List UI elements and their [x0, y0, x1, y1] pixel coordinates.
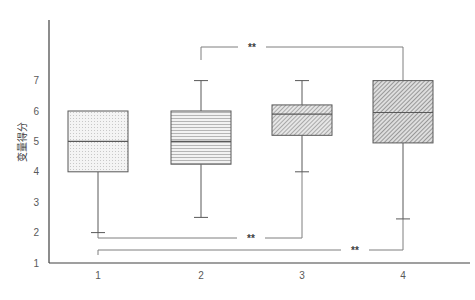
significance-bracket-1-3: ** — [98, 172, 302, 244]
boxplot-chart: ****** 12345671234变量得分 — [0, 0, 475, 300]
box-1 — [68, 111, 128, 233]
chart-canvas: ****** 12345671234变量得分 — [0, 0, 475, 300]
box-3 — [272, 81, 332, 172]
x-tick-label: 4 — [400, 270, 406, 281]
x-tick-label: 2 — [198, 270, 204, 281]
box-4 — [373, 81, 433, 219]
x-tick-label: 3 — [299, 270, 305, 281]
significance-label: ** — [247, 233, 255, 244]
y-tick-label: 4 — [33, 166, 39, 177]
y-tick-label: 5 — [33, 136, 39, 147]
iqr-box — [373, 81, 433, 143]
significance-brackets: ****** — [98, 42, 403, 256]
y-tick-label: 7 — [33, 75, 39, 86]
significance-label: ** — [248, 42, 256, 53]
iqr-box — [272, 105, 332, 135]
y-tick-label: 2 — [33, 227, 39, 238]
iqr-box — [171, 111, 231, 164]
x-tick-label: 1 — [95, 270, 101, 281]
significance-bracket-2-4: ** — [201, 42, 403, 81]
box-2 — [171, 81, 231, 218]
boxes — [68, 81, 433, 233]
significance-label: ** — [351, 245, 359, 256]
y-tick-label: 1 — [33, 258, 39, 269]
y-tick-label: 6 — [33, 106, 39, 117]
y-tick-label: 3 — [33, 197, 39, 208]
y-axis-label: 变量得分 — [16, 122, 28, 162]
